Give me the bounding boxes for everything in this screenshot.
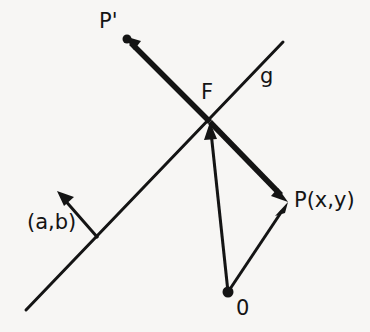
label-p-prime: P' xyxy=(99,11,117,32)
geometry-diagram: P' F g P(x,y) (a,b) 0 xyxy=(0,0,370,332)
label-normal-ab: (a,b) xyxy=(27,212,76,233)
vector-o-to-p xyxy=(228,211,282,292)
arrow-tip-blob-p-prime xyxy=(123,35,132,44)
vector-f-to-p-prime xyxy=(131,43,210,122)
label-line-g: g xyxy=(260,66,273,87)
label-point-p: P(x,y) xyxy=(294,190,355,211)
diagram-canvas xyxy=(0,0,370,332)
point-origin-dot xyxy=(223,287,234,298)
vector-f-to-p xyxy=(210,122,281,195)
label-foot-f: F xyxy=(201,82,213,103)
arrowhead-normal-ab xyxy=(57,191,74,206)
arrowhead-p-from-o xyxy=(275,202,288,216)
vector-o-to-f xyxy=(211,132,228,292)
label-origin: 0 xyxy=(236,298,249,319)
